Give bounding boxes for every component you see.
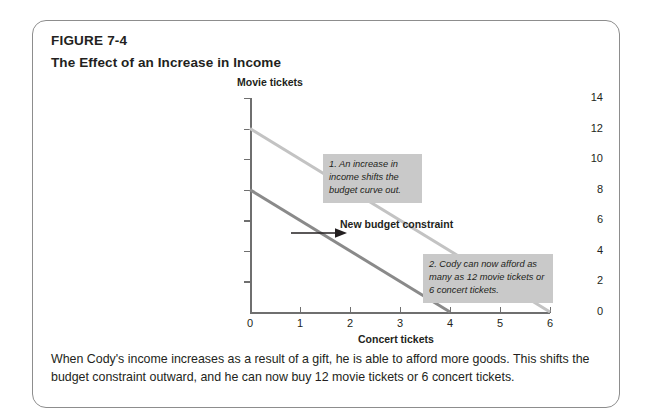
chart-plot-area: Movie tickets Concert tickets 0246810121… [183,76,603,351]
figure-card: FIGURE 7-4 The Effect of an Increase in … [32,20,620,408]
figure-title: The Effect of an Increase in Income [51,55,281,70]
budget-constraint-line [250,190,450,312]
figure-number: FIGURE 7-4 [51,33,127,48]
callout-affordable-quantities: 2. Cody can now afford as many as 12 mov… [423,254,553,303]
right-arrow-icon [291,228,347,238]
new-budget-constraint-label: New budget constraint [340,218,453,230]
figure-caption: When Cody's income increases as a result… [51,351,603,387]
callout-increase-in-income: 1. An increase in income shifts the budg… [323,154,422,203]
chart-lines [183,76,603,351]
